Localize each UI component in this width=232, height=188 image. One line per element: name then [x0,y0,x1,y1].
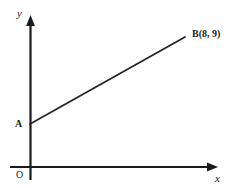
point-a-label: A [15,119,22,129]
origin-label: O [16,170,23,180]
y-axis-label: y [17,8,22,19]
point-b-label: B(8, 9) [192,29,220,39]
x-axis-arrowhead [207,163,218,172]
segment-ab [30,37,185,124]
y-axis-arrowhead [26,15,35,26]
x-axis-label: x [215,173,220,184]
geometry-figure: y x O A B(8, 9) [0,0,232,188]
